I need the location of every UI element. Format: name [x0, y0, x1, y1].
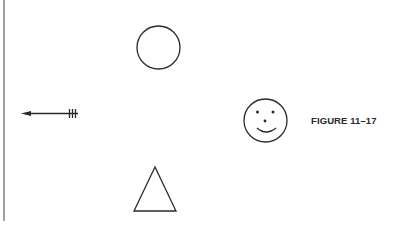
circle-shape — [137, 26, 180, 69]
arrow-icon — [21, 109, 78, 118]
figure-caption: FIGURE 11–17 — [311, 115, 377, 126]
triangle-shape — [134, 167, 176, 211]
smiley-face-icon — [244, 99, 287, 142]
